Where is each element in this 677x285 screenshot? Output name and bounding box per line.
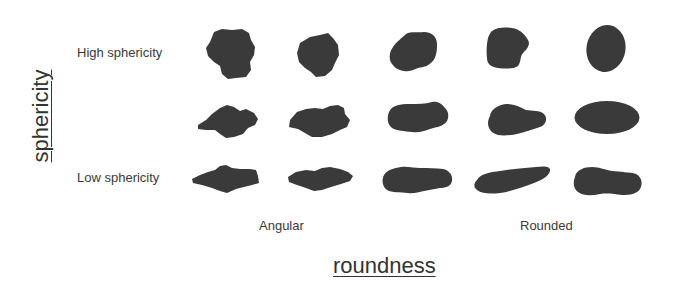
particle-high-angular: [297, 33, 339, 77]
particle-medium-angular: [289, 105, 350, 137]
particle-row-medium-sphericity: [198, 101, 640, 138]
particle-low-angular: [288, 167, 353, 191]
particle-high-very-angular: [206, 29, 255, 79]
particle-medium-sub-rounded: [388, 102, 449, 132]
particle-low-very-angular: [192, 165, 259, 193]
particle-low-well-rounded: [574, 167, 642, 195]
particle-medium-well-rounded: [575, 101, 640, 134]
particle-medium-very-angular: [198, 105, 258, 138]
particle-low-rounded: [474, 166, 550, 193]
x-axis-title-roundness: roundness: [333, 253, 436, 279]
particle-row-low-sphericity: [192, 165, 642, 195]
particle-low-sub-rounded: [383, 167, 453, 194]
particle-medium-rounded: [488, 104, 546, 135]
particle-high-sub-rounded: [390, 32, 437, 71]
particle-grid: [0, 0, 677, 285]
column-label-angular: Angular: [259, 218, 304, 233]
column-label-rounded: Rounded: [520, 218, 573, 233]
particle-high-well-rounded: [583, 22, 630, 75]
particle-high-rounded: [487, 27, 529, 68]
particle-row-high-sphericity: [206, 22, 629, 79]
